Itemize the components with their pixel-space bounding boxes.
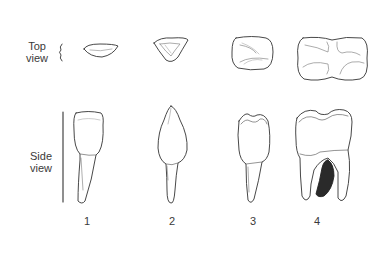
tooth-number-4: 4	[314, 215, 320, 227]
tooth-4-top-view	[298, 37, 368, 80]
tooth-number-1: 1	[84, 215, 90, 227]
top-view-brace	[60, 44, 63, 61]
tooth-2-top-view	[154, 38, 188, 62]
tooth-1-side-view	[74, 112, 104, 204]
teeth-illustration	[0, 0, 378, 269]
tooth-number-2: 2	[169, 215, 175, 227]
tooth-2-side-view	[158, 106, 187, 203]
tooth-4-side-view	[296, 110, 352, 201]
tooth-4-root-cavity	[316, 160, 334, 197]
tooth-3-top-view	[232, 37, 273, 70]
tooth-number-3: 3	[250, 215, 256, 227]
tooth-3-side-view	[238, 114, 270, 202]
tooth-1-top-view	[84, 44, 118, 57]
